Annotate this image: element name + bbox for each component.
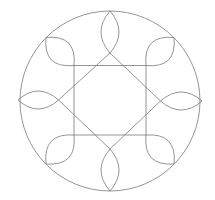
leaf-bottom-left xyxy=(46,135,75,164)
vesica-right xyxy=(161,92,203,110)
corner-leaves xyxy=(46,37,175,164)
vesica-left xyxy=(18,91,59,109)
leaf-bottom-right xyxy=(146,135,175,164)
vesica-bottom xyxy=(101,149,119,191)
vesica-top xyxy=(101,11,119,53)
geometric-pattern-diagram xyxy=(0,0,215,200)
leaf-top-right xyxy=(146,37,175,66)
leaf-top-left xyxy=(46,37,75,66)
